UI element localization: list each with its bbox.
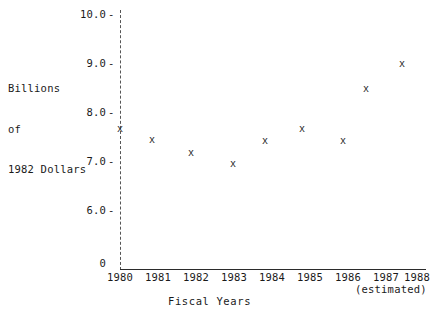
x-tick-label-1981: 1981	[141, 272, 175, 283]
x-axis-estimated-note: (estimated)	[355, 284, 427, 295]
y-axis-title: Billions of 1982 Dollars	[8, 55, 86, 204]
x-tick-label-1984: 1984	[255, 272, 289, 283]
data-point-1988: x	[397, 58, 408, 69]
y-axis-title-line-2: of	[8, 123, 86, 137]
x-tick-label-1985: 1985	[293, 272, 327, 283]
data-point-1980: x	[115, 123, 126, 134]
x-tick-label-1988: 1988	[400, 272, 434, 283]
data-point-1987: x	[361, 83, 372, 94]
x-tick-label-1987: 1987	[369, 272, 403, 283]
y-tick-dash-10: -	[108, 9, 114, 20]
data-point-1981: x	[147, 134, 158, 145]
data-point-1984: x	[260, 135, 271, 146]
y-tick-label-9: 9.0	[62, 58, 106, 69]
y-tick-dash-7: -	[108, 156, 114, 167]
y-axis-title-line-1: Billions	[8, 82, 86, 96]
data-point-1985: x	[297, 123, 308, 134]
data-point-1983: x	[228, 158, 239, 169]
y-tick-label-8: 8.0	[62, 107, 106, 118]
y-axis-line	[120, 10, 121, 270]
x-axis-line	[120, 269, 426, 270]
y-tick-label-0: 0	[62, 258, 106, 269]
y-tick-label-7: 7.0	[62, 156, 106, 167]
x-tick-label-1986: 1986	[331, 272, 365, 283]
data-point-1986: x	[338, 135, 349, 146]
y-tick-label-10: 10.0	[62, 9, 106, 20]
x-tick-label-1983: 1983	[217, 272, 251, 283]
data-point-1982: x	[186, 147, 197, 158]
y-tick-dash-6: -	[108, 205, 114, 216]
x-tick-label-1980: 1980	[103, 272, 137, 283]
y-tick-label-6: 6.0	[62, 205, 106, 216]
y-tick-dash-9: -	[108, 58, 114, 69]
x-axis-title: Fiscal Years	[168, 296, 251, 307]
y-tick-dash-8: -	[108, 107, 114, 118]
x-tick-label-1982: 1982	[179, 272, 213, 283]
